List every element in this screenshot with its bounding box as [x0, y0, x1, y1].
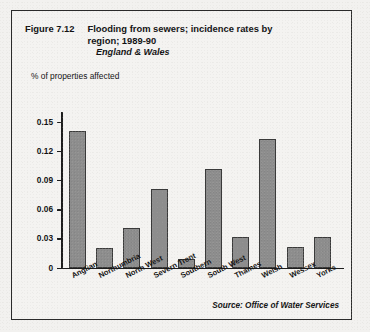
bar-chart-plot: 0.150.120.090.060.030 AnglianNorthumbria… [61, 112, 353, 269]
figure-title-block: Figure 7.12 Flooding from sewers; incide… [25, 23, 341, 57]
y-tick: 0.03 [57, 238, 62, 239]
figure-page: Figure 7.12 Flooding from sewers; incide… [0, 0, 370, 332]
y-tick-label: 0.15 [37, 117, 53, 127]
bar [314, 237, 331, 267]
figure-number: Figure 7.12 [25, 23, 75, 34]
bar [205, 169, 222, 268]
source-note: Source: Office of Water Services [212, 301, 339, 310]
y-tick: 0.06 [57, 209, 62, 210]
y-tick: 0 [57, 268, 62, 269]
figure-subtitle: England & Wales [96, 47, 341, 57]
bar [259, 139, 276, 268]
y-tick: 0.09 [57, 180, 62, 181]
page-title: Flooding from sewers; incidence rates by… [88, 23, 306, 46]
y-tick: 0.12 [57, 151, 62, 152]
y-axis-label: % of properties affected [31, 71, 119, 81]
y-tick-label: 0.06 [37, 204, 53, 214]
y-tick-label: 0.03 [37, 233, 53, 243]
y-tick-label: 0 [48, 263, 53, 273]
y-axis-line [61, 112, 63, 269]
y-tick: 0.15 [57, 122, 62, 123]
y-tick-label: 0.09 [37, 175, 53, 185]
y-tick-label: 0.12 [37, 146, 53, 156]
bar [69, 131, 86, 268]
title-row: Figure 7.12 Flooding from sewers; incide… [25, 23, 341, 46]
figure-frame: Figure 7.12 Flooding from sewers; incide… [11, 10, 352, 320]
